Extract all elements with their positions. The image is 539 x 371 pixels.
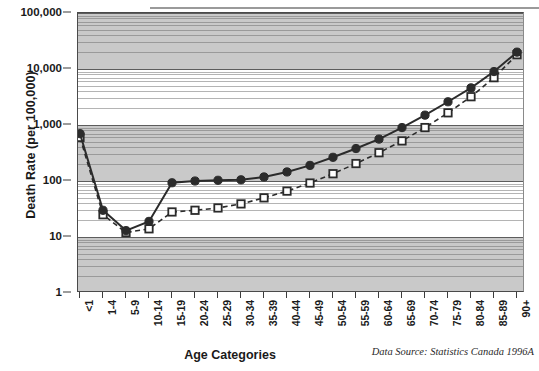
x-axis-tick-labels: <11-45-910-1415-1920-2425-2930-3435-3940…	[77, 300, 524, 352]
series-dashed-square-series	[78, 51, 521, 236]
x-tick-mark	[470, 292, 471, 298]
data-point-circle	[375, 135, 383, 143]
data-point-circle	[145, 217, 153, 225]
data-point-circle	[306, 161, 314, 169]
x-tick-label: 30-34	[244, 300, 256, 326]
data-point-square	[145, 225, 152, 232]
y-tick-label: 100,000	[20, 6, 62, 18]
y-tick-mark	[63, 236, 71, 237]
y-tick-mark	[63, 292, 71, 293]
x-tick-mark	[217, 292, 218, 298]
data-point-circle	[191, 177, 199, 185]
data-point-square	[352, 160, 359, 167]
x-tick-mark	[171, 292, 172, 298]
x-tick-label: 40-44	[290, 300, 302, 326]
x-tick-label: 20-24	[198, 300, 210, 326]
data-point-circle	[398, 123, 406, 131]
x-tick-mark	[263, 292, 264, 298]
x-tick-mark	[102, 292, 103, 298]
data-point-circle	[237, 176, 245, 184]
data-point-square	[283, 187, 290, 194]
data-point-circle	[99, 206, 107, 214]
x-tick-label: 75-79	[451, 300, 463, 326]
series-line	[80, 55, 517, 233]
data-point-square	[214, 204, 221, 211]
chart-figure: Death Rate (per 100,000) 100,00010,0001,…	[0, 0, 539, 371]
y-tick-label: 1	[56, 286, 62, 298]
x-tick-label: 65-69	[405, 300, 417, 326]
series-solid-circle-series	[78, 48, 521, 235]
x-tick-mark	[401, 292, 402, 298]
x-tick-mark	[194, 292, 195, 298]
y-tick-mark	[63, 12, 71, 13]
data-point-circle	[352, 144, 360, 152]
x-tick-label: 45-49	[313, 300, 325, 326]
data-point-square	[329, 170, 336, 177]
x-tick-mark	[286, 292, 287, 298]
data-point-circle	[467, 84, 475, 92]
x-tick-mark	[332, 292, 333, 298]
x-tick-label: 1-4	[106, 300, 118, 315]
data-point-circle	[168, 179, 176, 187]
x-tick-label: 80-84	[474, 300, 486, 326]
data-point-circle	[122, 227, 130, 235]
x-tick-label: 70-74	[428, 300, 440, 326]
x-tick-label: 60-64	[382, 300, 394, 326]
y-tick-label: 10	[49, 230, 62, 242]
x-tick-label: 35-39	[267, 300, 279, 326]
x-tick-label: 15-19	[175, 300, 187, 326]
x-tick-mark	[355, 292, 356, 298]
data-point-square	[467, 93, 474, 100]
data-point-square	[168, 208, 175, 215]
data-point-circle	[490, 67, 498, 75]
data-point-square	[421, 124, 428, 131]
data-point-circle	[283, 168, 291, 176]
x-tick-label: 10-14	[152, 300, 164, 326]
data-point-square	[191, 207, 198, 214]
x-tick-label: 25-29	[221, 300, 233, 326]
data-point-square	[398, 137, 405, 144]
y-tick-label: 1,000	[33, 118, 62, 130]
y-tick-mark	[63, 68, 71, 69]
data-point-circle	[214, 176, 222, 184]
y-axis-tick-labels: 100,00010,0001,000100101	[0, 0, 74, 371]
y-tick-label: 100	[43, 174, 62, 186]
top-rule	[150, 7, 539, 9]
y-tick-mark	[63, 124, 71, 125]
data-series-layer	[78, 13, 524, 292]
data-point-circle	[260, 173, 268, 181]
x-tick-label: 85-89	[497, 300, 509, 326]
x-tick-label: 5-9	[129, 300, 141, 315]
y-tick-label: 10,000	[27, 62, 62, 74]
data-point-square	[375, 149, 382, 156]
data-point-circle	[513, 48, 521, 56]
x-tick-mark	[493, 292, 494, 298]
data-source-note: Data Source: Statistics Canada 1996A	[0, 346, 534, 357]
x-tick-mark	[424, 292, 425, 298]
data-point-square	[306, 179, 313, 186]
x-tick-mark	[378, 292, 379, 298]
x-tick-label: <1	[83, 300, 95, 312]
x-tick-mark	[447, 292, 448, 298]
x-tick-label: 55-59	[359, 300, 371, 326]
data-point-square	[444, 109, 451, 116]
y-tick-mark	[63, 180, 71, 181]
x-tick-mark	[309, 292, 310, 298]
x-tick-mark	[79, 292, 80, 298]
x-tick-mark	[125, 292, 126, 298]
data-point-circle	[329, 153, 337, 161]
data-point-circle	[444, 98, 452, 106]
x-tick-mark	[516, 292, 517, 298]
data-point-circle	[421, 111, 429, 119]
x-tick-label: 50-54	[336, 300, 348, 326]
data-point-square	[237, 200, 244, 207]
data-point-circle	[78, 130, 84, 138]
data-point-square	[260, 194, 267, 201]
plot-area	[77, 12, 524, 292]
x-tick-label: 90+	[520, 300, 532, 318]
series-line	[80, 52, 517, 230]
x-tick-mark	[148, 292, 149, 298]
x-tick-mark	[240, 292, 241, 298]
